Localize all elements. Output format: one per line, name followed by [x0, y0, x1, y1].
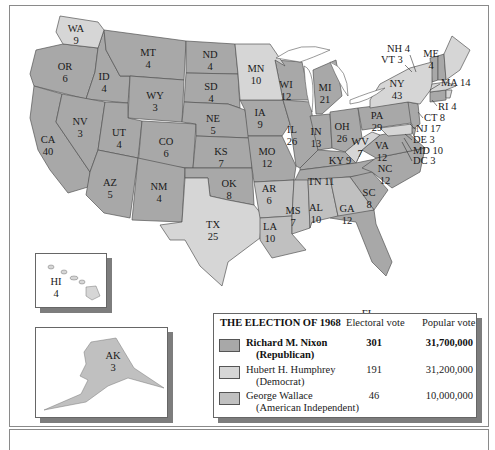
label-MN-ev: 10 [251, 75, 262, 86]
label-SC-abbr: SC [363, 187, 376, 198]
label-CO-abbr: CO [159, 136, 174, 147]
state-FL [330, 210, 392, 276]
label-WA-ev: 9 [73, 35, 78, 46]
label-AR-ev: 6 [266, 195, 271, 206]
label-NV-abbr: NV [72, 116, 88, 127]
label-NY-ev: 43 [392, 90, 403, 101]
label-IL-ev: 26 [287, 136, 298, 147]
label-OR-abbr: OR [58, 61, 73, 72]
label-MI-ev: 21 [320, 94, 331, 105]
popular-vote: 31,200,000 [409, 364, 473, 375]
election-legend: THE ELECTION OF 1968 Electoral vote Popu… [213, 313, 477, 418]
label-CA-abbr: CA [41, 134, 56, 145]
electoral-vote: 301 [344, 337, 404, 348]
callout-VT: VT 3 [381, 54, 403, 65]
label-NE-ev: 5 [210, 125, 215, 136]
label-NC-ev: 12 [380, 175, 391, 186]
hawaii-inset: HI 4 [35, 253, 107, 308]
label-OK-ev: 8 [226, 190, 231, 201]
label-WA-abbr: WA [68, 23, 85, 34]
label-AR-abbr: AR [262, 183, 277, 194]
callout-NH: NH 4 [387, 43, 411, 54]
swatch-humphrey [219, 366, 240, 379]
legend-row-nixon: Richard M. Nixon(Republican) 301 31,700,… [214, 337, 476, 367]
label-TN: TN 11 [308, 176, 335, 187]
label-PA-ev: 29 [372, 122, 383, 133]
label-ID-ev: 4 [101, 83, 107, 94]
label-MO-abbr: MO [259, 146, 276, 157]
candidate-name: Richard M. Nixon(Republican) [246, 337, 327, 361]
state-ME [444, 36, 470, 80]
alaska-inset: AK 3 [35, 327, 168, 418]
label-IL-abbr: IL [287, 124, 297, 135]
label-LA-ev: 10 [265, 233, 276, 244]
label-WI-abbr: WI [279, 79, 293, 90]
label-ME-abbr: ME [423, 48, 439, 59]
label-NC-abbr: NC [378, 163, 393, 174]
label-SD-ev: 4 [208, 93, 214, 104]
label-VA-ev: 12 [377, 152, 388, 163]
label-UT-abbr: UT [112, 127, 127, 138]
label-NE-abbr: NE [206, 113, 220, 124]
label-AK-abbr: AK [105, 350, 121, 361]
label-OH-ev: 26 [337, 133, 348, 144]
label-OK-abbr: OK [221, 178, 237, 189]
label-CA-ev: 40 [43, 146, 54, 157]
candidate-name: Hubert H. Humphrey(Democrat) [246, 364, 336, 388]
label-SD-abbr: SD [204, 81, 218, 92]
label-NM-ev: 4 [156, 193, 162, 204]
legend-row-wallace: George Wallace(American Independent) 46 … [214, 390, 476, 420]
label-MT-ev: 4 [145, 59, 151, 70]
label-TX-abbr: TX [206, 219, 220, 230]
label-GA-ev: 12 [342, 215, 353, 226]
state-RI [446, 90, 452, 98]
legend-title: THE ELECTION OF 1968 [220, 317, 341, 328]
label-MS-ev: 7 [290, 217, 295, 228]
candidate-name: George Wallace(American Independent) [246, 390, 359, 414]
label-KY: KY 9 [329, 155, 352, 166]
hawaii-map: HI 4 [36, 254, 106, 307]
label-ND-ev: 4 [207, 61, 213, 72]
label-AL-abbr: AL [309, 202, 323, 213]
label-KS-ev: 7 [218, 158, 223, 169]
callout-CT: CT 8 [424, 112, 445, 123]
label-OR-ev: 6 [62, 73, 67, 84]
label-WV-abbr: WV [351, 136, 369, 147]
label-MO-ev: 12 [262, 158, 273, 169]
label-MS-abbr: MS [285, 205, 300, 216]
label-PA-abbr: PA [371, 110, 384, 121]
label-KS-abbr: KS [214, 146, 228, 157]
electoral-vote: 46 [344, 390, 404, 401]
label-TX-ev: 25 [208, 231, 219, 242]
alaska-map: AK 3 [36, 328, 167, 417]
callout-RI: RI 4 [438, 101, 457, 112]
label-OH-abbr: OH [334, 121, 350, 132]
popular-vote: 10,000,000 [409, 390, 473, 401]
label-VA-abbr: VA [375, 140, 389, 151]
label-AZ-ev: 5 [107, 189, 112, 200]
label-IA-abbr: IA [254, 107, 265, 118]
lake-superior [276, 46, 330, 62]
label-NM-abbr: NM [151, 181, 169, 192]
label-MN-abbr: MN [248, 63, 265, 74]
label-NY-abbr: NY [389, 78, 405, 89]
label-ID-abbr: ID [98, 71, 109, 82]
state-IA [240, 100, 290, 136]
callout-DC: DC 3 [413, 155, 435, 166]
label-IN-abbr: IN [310, 126, 321, 137]
legend-col-electoral: Electoral vote [346, 317, 405, 328]
label-LA-abbr: LA [263, 221, 277, 232]
popular-vote: 31,700,000 [409, 337, 473, 348]
label-HI-abbr: HI [50, 276, 62, 287]
label-IA-ev: 9 [257, 119, 262, 130]
label-MT-abbr: MT [140, 47, 156, 58]
label-WV-ev: 7 [357, 148, 362, 159]
label-GA-abbr: GA [339, 203, 355, 214]
legend-col-popular: Popular vote [422, 317, 475, 328]
swatch-wallace [219, 392, 240, 405]
label-AL-ev: 10 [311, 214, 322, 225]
callout-DE: DE 3 [413, 134, 435, 145]
label-NV-ev: 3 [77, 128, 82, 139]
label-SC-ev: 8 [366, 199, 371, 210]
electoral-vote: 191 [344, 364, 404, 375]
